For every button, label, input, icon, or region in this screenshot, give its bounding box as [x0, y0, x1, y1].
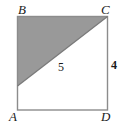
vertex-label-a: A — [9, 110, 17, 123]
geometry-figure: B C A D 5 4 — [0, 0, 124, 129]
vertex-label-b: B — [18, 3, 26, 16]
measure-label-right-side: 4 — [111, 59, 117, 71]
vertex-label-c: C — [101, 3, 110, 16]
measure-label-hypotenuse: 5 — [58, 61, 64, 73]
vertex-label-d: D — [101, 110, 110, 123]
